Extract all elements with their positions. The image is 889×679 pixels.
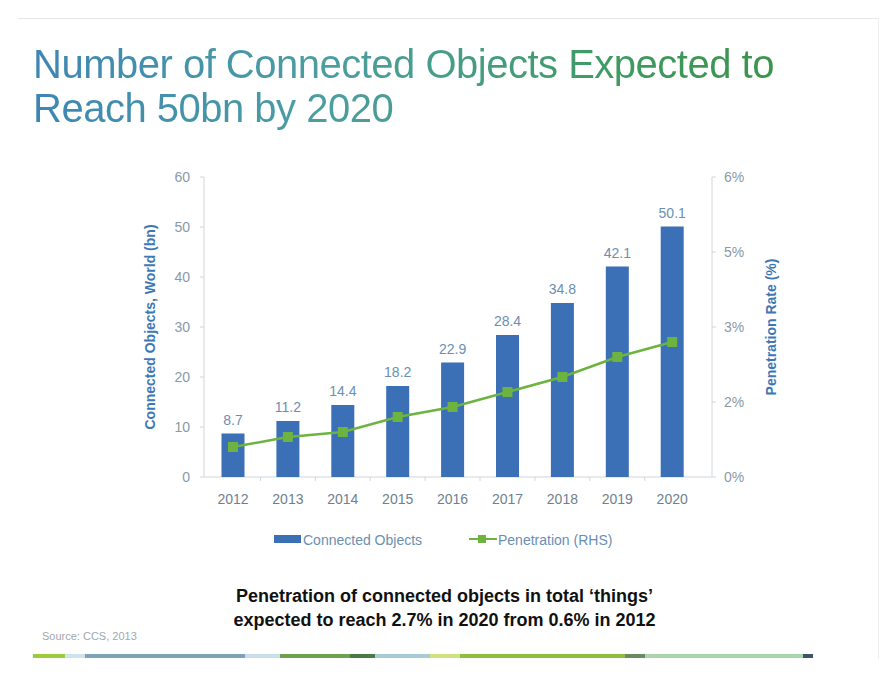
right-tick-label: 0% — [724, 469, 744, 485]
x-axis-ticks: 201220132014201520162017201820192020 — [217, 477, 688, 507]
left-tick-label: 30 — [174, 319, 190, 335]
bar — [661, 227, 684, 478]
right-tick-label: 5% — [724, 244, 744, 260]
bar-value-label: 18.2 — [384, 364, 411, 380]
x-tick-label: 2018 — [547, 491, 578, 507]
x-tick-label: 2020 — [657, 491, 688, 507]
legend-bar-swatch — [274, 535, 301, 543]
bar-value-label: 42.1 — [604, 245, 631, 261]
x-tick-label: 2016 — [437, 491, 468, 507]
x-tick-label: 2015 — [382, 491, 413, 507]
right-axis-ticks: 0%2%3%5%6% — [712, 169, 744, 485]
x-tick-label: 2019 — [602, 491, 633, 507]
bar — [222, 434, 245, 478]
bar — [606, 267, 629, 478]
bar — [551, 303, 574, 477]
penetration-marker — [503, 387, 513, 397]
x-tick-label: 2017 — [492, 491, 523, 507]
penetration-marker — [393, 412, 403, 422]
legend: Connected Objects Penetration (RHS) — [274, 532, 612, 548]
penetration-marker — [667, 337, 677, 347]
bar — [276, 421, 299, 477]
source-note: Source: CCS, 2013 — [42, 630, 137, 642]
penetration-marker — [612, 352, 622, 362]
footer-stripe — [33, 654, 863, 658]
legend-line-label: Penetration (RHS) — [498, 532, 612, 548]
bar — [496, 335, 519, 477]
x-tick-label: 2013 — [272, 491, 303, 507]
penetration-marker — [338, 427, 348, 437]
right-tick-label: 3% — [724, 319, 744, 335]
bar-value-label: 11.2 — [275, 399, 301, 415]
left-tick-label: 40 — [174, 269, 190, 285]
caption-line-1: Penetration of connected objects in tota… — [0, 584, 889, 608]
x-tick-label: 2012 — [217, 491, 248, 507]
penetration-marker — [283, 432, 293, 442]
bar-value-label: 28.4 — [494, 313, 521, 329]
right-axis-title: Penetration Rate (%) — [763, 259, 779, 396]
left-tick-label: 10 — [174, 419, 190, 435]
bar-value-label: 34.8 — [549, 281, 576, 297]
legend-bar-label: Connected Objects — [303, 532, 422, 548]
bar-value-label: 50.1 — [659, 205, 686, 221]
penetration-marker — [448, 402, 458, 412]
bar-value-label: 22.9 — [439, 341, 466, 357]
penetration-marker — [228, 442, 238, 452]
left-tick-label: 60 — [174, 169, 190, 185]
bar-value-label: 14.4 — [329, 383, 356, 399]
left-tick-label: 50 — [174, 219, 190, 235]
bar — [386, 386, 409, 477]
chart-caption: Penetration of connected objects in tota… — [0, 584, 889, 632]
left-axis-title: Connected Objects, World (bn) — [142, 224, 158, 429]
right-tick-label: 6% — [724, 169, 744, 185]
bar-value-label: 8.7 — [223, 412, 243, 428]
right-tick-label: 2% — [724, 394, 744, 410]
left-axis-ticks: 0102030405060 — [174, 169, 204, 485]
chart: 0102030405060 0%2%3%5%6% 8.711.214.418.2… — [0, 0, 889, 679]
left-tick-label: 20 — [174, 369, 190, 385]
left-tick-label: 0 — [182, 469, 190, 485]
bar — [331, 405, 354, 477]
caption-line-2: expected to reach 2.7% in 2020 from 0.6%… — [0, 608, 889, 632]
bar — [441, 363, 464, 478]
legend-line-marker — [478, 535, 486, 543]
x-tick-label: 2014 — [327, 491, 358, 507]
penetration-marker — [557, 372, 567, 382]
